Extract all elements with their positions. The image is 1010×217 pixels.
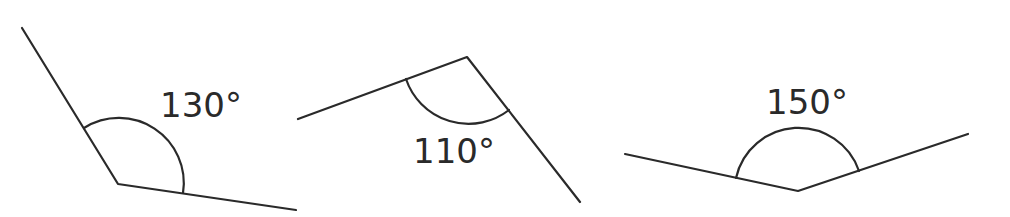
angle-110: 110° (298, 57, 580, 202)
angle-150-label: 150° (766, 82, 848, 122)
angle-110-arc (406, 79, 509, 124)
angle-150-arc (736, 128, 859, 178)
angle-110-label: 110° (413, 131, 495, 171)
angle-110-rays (298, 57, 580, 202)
angles-diagram: 130° 110° 150° (0, 0, 1010, 217)
angle-130: 130° (22, 28, 296, 210)
angle-150: 150° (625, 82, 968, 191)
angle-130-label: 130° (160, 85, 242, 125)
angle-130-rays (22, 28, 296, 210)
angle-150-rays (625, 134, 968, 191)
angle-130-arc (84, 118, 184, 193)
